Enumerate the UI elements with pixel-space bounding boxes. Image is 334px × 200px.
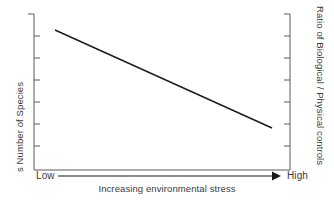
x-tick-label-high: High xyxy=(287,170,308,181)
left-axis-title: s Number of Species xyxy=(14,0,28,172)
x-tick-label-low: Low xyxy=(36,170,55,181)
data-line-species-decline xyxy=(55,30,272,128)
right-axis-ticks xyxy=(284,14,290,146)
x-axis-title: Increasing environmental stress xyxy=(0,183,334,194)
right-axis-title: Ratio of Biological / Physical controls xyxy=(312,6,326,192)
figure-canvas: s Number of Species Ratio of Biological … xyxy=(0,0,334,200)
stress-direction-arrow xyxy=(58,172,281,181)
